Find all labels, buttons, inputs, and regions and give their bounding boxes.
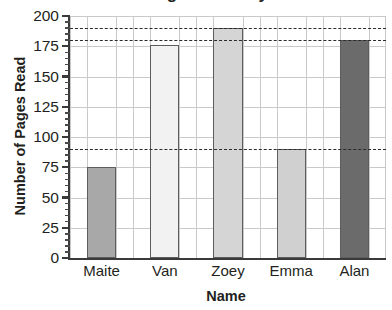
y-tick-label: 50 — [42, 189, 59, 207]
plot-inner — [70, 16, 386, 258]
y-tick-label: 125 — [33, 98, 59, 116]
x-tick-label-van: Van — [152, 262, 178, 279]
plot-area: 0255075100125150175200MaiteVanZoeyEmmaAl… — [68, 16, 386, 260]
y-minor-tick — [65, 245, 70, 247]
gridline-vertical — [133, 16, 134, 258]
y-minor-tick — [65, 179, 70, 181]
reference-line-90 — [70, 149, 386, 150]
y-minor-tick — [65, 39, 70, 41]
y-major-tick — [62, 257, 70, 259]
y-minor-tick — [65, 58, 70, 60]
gridline-vertical — [243, 16, 244, 258]
y-minor-tick — [65, 154, 70, 156]
y-major-tick — [62, 45, 70, 47]
y-tick-label: 75 — [42, 158, 59, 176]
gridline-vertical — [369, 16, 370, 258]
y-minor-tick — [65, 191, 70, 193]
y-minor-tick — [65, 52, 70, 54]
gridline-vertical — [323, 16, 324, 258]
y-minor-tick — [65, 251, 70, 253]
y-major-tick — [62, 15, 70, 17]
y-minor-tick — [65, 148, 70, 150]
y-minor-tick — [65, 112, 70, 114]
chart-title: Number of Pages Read by Student — [0, 0, 392, 4]
y-major-tick — [62, 227, 70, 229]
y-major-tick — [62, 75, 70, 77]
y-tick-label: 100 — [33, 128, 59, 146]
y-minor-tick — [65, 94, 70, 96]
y-minor-tick — [65, 160, 70, 162]
gridline-vertical — [179, 16, 180, 258]
gridline-vertical — [70, 16, 71, 258]
gridline-vertical — [385, 16, 386, 258]
y-minor-tick — [65, 209, 70, 211]
x-tick-label-emma: Emma — [270, 262, 313, 279]
y-minor-tick — [65, 88, 70, 90]
bar-maite — [87, 167, 116, 258]
y-minor-tick — [65, 130, 70, 132]
y-minor-tick — [65, 185, 70, 187]
gridline-vertical — [196, 16, 197, 258]
y-tick-label: 200 — [33, 7, 59, 25]
y-minor-tick — [65, 203, 70, 205]
y-tick-label: 175 — [33, 37, 59, 55]
y-major-tick — [62, 136, 70, 138]
y-tick-label: 25 — [42, 219, 59, 237]
y-major-tick — [62, 106, 70, 108]
y-minor-tick — [65, 64, 70, 66]
y-minor-tick — [65, 118, 70, 120]
y-minor-tick — [65, 221, 70, 223]
x-tick-label-zoey: Zoey — [211, 262, 244, 279]
gridline-vertical — [260, 16, 261, 258]
y-minor-tick — [65, 21, 70, 23]
y-axis-title: Number of Pages Read — [12, 21, 28, 251]
y-minor-tick — [65, 33, 70, 35]
x-tick-label-maite: Maite — [83, 262, 120, 279]
y-minor-tick — [65, 124, 70, 126]
bar-chart: Number of Pages Read by Student Number o… — [0, 0, 392, 310]
bar-zoey — [213, 28, 242, 258]
y-minor-tick — [65, 27, 70, 29]
gridline-vertical — [116, 16, 117, 258]
y-minor-tick — [65, 215, 70, 217]
y-minor-tick — [65, 173, 70, 175]
y-minor-tick — [65, 82, 70, 84]
y-major-tick — [62, 196, 70, 198]
y-minor-tick — [65, 142, 70, 144]
y-tick-label: 0 — [50, 249, 59, 267]
bar-emma — [277, 149, 306, 258]
x-axis-title: Name — [60, 288, 392, 304]
bar-van — [150, 45, 179, 258]
y-minor-tick — [65, 239, 70, 241]
y-minor-tick — [65, 233, 70, 235]
y-major-tick — [62, 166, 70, 168]
x-tick-label-alan: Alan — [339, 262, 369, 279]
reference-line-180 — [70, 40, 386, 41]
y-minor-tick — [65, 100, 70, 102]
y-tick-label: 150 — [33, 68, 59, 86]
y-minor-tick — [65, 70, 70, 72]
gridline-horizontal — [70, 16, 386, 17]
gridline-vertical — [306, 16, 307, 258]
reference-line-190 — [70, 28, 386, 29]
